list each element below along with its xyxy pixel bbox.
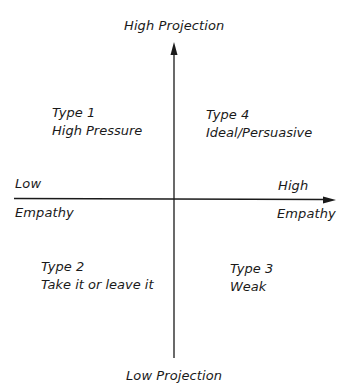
quadrant-name: Take it or leave it <box>41 276 154 294</box>
axes <box>0 0 350 390</box>
quadrant-name: Weak <box>230 278 273 296</box>
quadrant-name: Ideal/Persuasive <box>206 124 312 142</box>
quadrant-bottom-right: Type 3 Weak <box>230 260 273 296</box>
quadrant-type: Type 4 <box>206 106 312 124</box>
empathy-axis-line <box>14 199 326 200</box>
empathy-arrow-right-icon <box>323 197 336 204</box>
empathy-projection-quadrant-diagram: High Projection Low Projection Low Empat… <box>0 0 350 390</box>
high-empathy-label-bottom: Empathy <box>277 206 336 222</box>
low-empathy-label-bottom: Empathy <box>15 205 74 221</box>
projection-arrow-up-icon <box>171 42 178 55</box>
low-projection-label: Low Projection <box>126 368 222 384</box>
high-empathy-label-top: High <box>278 178 308 194</box>
high-projection-label: High Projection <box>124 18 224 34</box>
quadrant-type: Type 2 <box>41 258 154 276</box>
quadrant-type: Type 1 <box>52 104 142 122</box>
quadrant-top-left: Type 1 High Pressure <box>52 104 142 140</box>
quadrant-type: Type 3 <box>230 260 273 278</box>
quadrant-name: High Pressure <box>52 122 142 140</box>
quadrant-bottom-left: Type 2 Take it or leave it <box>41 258 154 294</box>
low-empathy-label-top: Low <box>15 176 41 192</box>
quadrant-top-right: Type 4 Ideal/Persuasive <box>206 106 312 142</box>
